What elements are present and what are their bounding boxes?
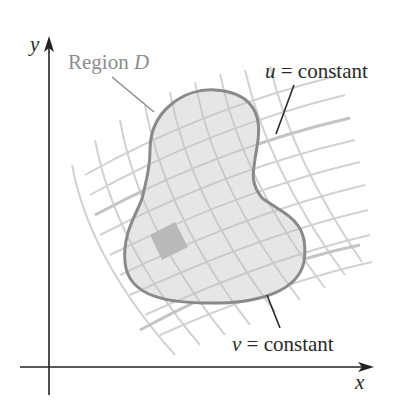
- region-d-label-prefix: Region: [68, 50, 134, 74]
- region-d-label-var: D: [134, 50, 149, 74]
- v-constant-label: v = constant: [232, 334, 334, 355]
- x-axis-label: x: [355, 372, 364, 393]
- v-constant-var: v: [232, 332, 241, 356]
- region-d-label: Region D: [68, 52, 149, 73]
- change-of-variables-figure: y x Region D u = constant v = constant: [0, 0, 400, 410]
- v-constant-text: = constant: [241, 332, 333, 356]
- u-constant-var: u: [265, 59, 276, 83]
- region-d-leader-line: [112, 77, 154, 112]
- y-axis-label: y: [30, 34, 39, 55]
- v-constant-leader-line: [267, 295, 280, 328]
- u-constant-text: = constant: [276, 59, 368, 83]
- u-constant-label: u = constant: [265, 61, 368, 82]
